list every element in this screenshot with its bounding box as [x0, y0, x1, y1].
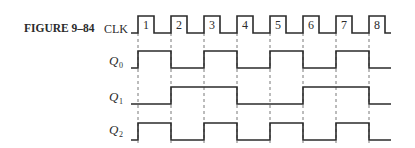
guide-lines — [138, 33, 369, 143]
svg-text:2: 2 — [119, 130, 123, 139]
pulse-number: 5 — [275, 18, 281, 32]
pulse-number: 2 — [176, 18, 182, 32]
svg-text:1: 1 — [119, 97, 123, 106]
clk-label: CLK — [104, 22, 128, 36]
pulse-number: 7 — [341, 18, 347, 32]
q2-label: Q 2 — [109, 122, 123, 139]
clk-waveform — [131, 16, 391, 33]
pulse-number: 3 — [209, 18, 215, 32]
pulse-number: 6 — [308, 18, 314, 32]
q1-waveform — [131, 87, 391, 104]
figure-label: FIGURE 9–84 — [24, 22, 95, 34]
svg-text:Q: Q — [109, 89, 119, 104]
svg-text:Q: Q — [109, 53, 119, 68]
q2-waveform — [131, 123, 391, 140]
svg-text:Q: Q — [109, 122, 119, 137]
q1-label: Q 1 — [109, 89, 123, 106]
pulse-number: 1 — [143, 18, 149, 32]
q0-label: Q 0 — [109, 53, 123, 70]
clock-pulse-numbers: 1 2 3 4 5 6 7 8 — [143, 18, 380, 32]
svg-text:0: 0 — [119, 61, 123, 70]
pulse-number: 4 — [242, 18, 248, 32]
timing-diagram: FIGURE 9–84 CLK Q 0 Q 1 Q 2 1 2 3 4 5 6 … — [0, 0, 415, 148]
q0-waveform — [131, 51, 391, 68]
pulse-number: 8 — [374, 18, 380, 32]
